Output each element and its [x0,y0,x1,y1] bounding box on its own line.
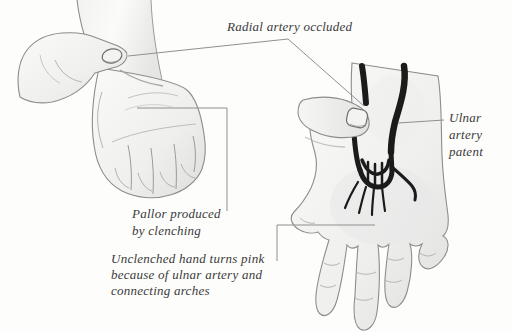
examiner-thumbnail-right [345,107,368,129]
clenched-fist [92,68,205,198]
open-hand-illustration [291,63,448,330]
clenched-fist-illustration [18,0,205,198]
label-unclenched-hand-turns-pink: Unclenched hand turns pink because of ul… [111,251,264,299]
label-radial-artery-occluded: Radial artery occluded [227,19,377,35]
label-pallor-produced-by-clenching: Pallor produced by clenching [132,205,221,239]
allen-test-figure: Radial artery occluded Ulnar artery pate… [0,0,512,332]
radial-artery [362,66,366,103]
label-ulnar-artery-patent: Ulnar artery patent [449,109,483,160]
